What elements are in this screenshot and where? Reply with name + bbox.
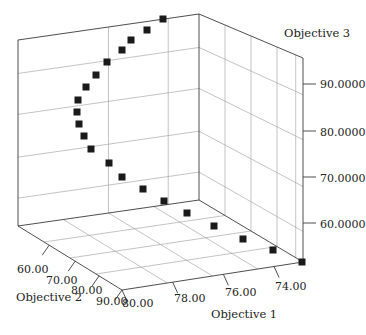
data-point-marker — [144, 27, 151, 34]
data-point-marker — [140, 186, 147, 193]
data-point-marker — [299, 259, 306, 266]
data-point-marker — [76, 121, 83, 128]
data-point-marker — [75, 97, 82, 104]
data-point-marker — [161, 198, 168, 205]
data-point-marker — [74, 109, 81, 116]
data-point-marker — [93, 72, 100, 79]
y-axis-label: Objective 2 — [16, 290, 82, 304]
x-axis-label: Objective 1 — [211, 307, 277, 321]
data-point-marker — [83, 84, 90, 91]
data-point-marker — [119, 174, 126, 181]
3d-scatter-chart: 90.0000 80.0000 70.0000 60.0000 60.00 70… — [0, 0, 366, 335]
data-point-marker — [160, 16, 167, 23]
x-tick-80: 80.00 — [122, 297, 154, 310]
data-point-marker — [81, 133, 88, 140]
x-tick-76: 76.00 — [225, 286, 257, 299]
data-point-marker — [106, 160, 113, 167]
grid-lines — [18, 18, 303, 283]
data-point-marker — [104, 59, 111, 66]
data-point-marker — [270, 247, 277, 254]
x-tick-74: 74.00 — [275, 280, 307, 293]
box-edges — [18, 14, 303, 290]
x-tick-78: 78.00 — [174, 292, 206, 305]
z-axis-label: Objective 3 — [284, 26, 350, 40]
axis-ticks — [42, 84, 316, 301]
data-point-marker — [211, 223, 218, 230]
y-tick-60: 60.00 — [17, 263, 49, 276]
z-tick-60: 60.0000 — [320, 218, 366, 231]
data-point-marker — [128, 37, 135, 44]
data-point-marker — [119, 47, 126, 54]
z-tick-70: 70.0000 — [320, 172, 366, 185]
data-point-marker — [88, 146, 95, 153]
data-point-marker — [184, 210, 191, 217]
z-tick-80: 80.0000 — [320, 126, 366, 139]
data-point-marker — [240, 236, 247, 243]
z-tick-90: 90.0000 — [320, 78, 366, 91]
